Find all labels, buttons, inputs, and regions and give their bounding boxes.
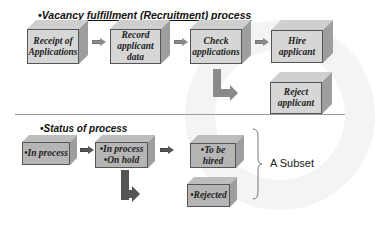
box-in-process: •In process [22,135,77,165]
arrow-right-icon [255,38,269,46]
section-divider [15,114,345,115]
arrow-right-icon [80,146,94,154]
curly-brace-icon [252,128,262,200]
box-reject-applicant: Reject applicant [270,72,332,114]
box-in-process-on-hold: •In process •On hold [95,135,155,168]
arrow-right-icon [160,146,174,154]
arrow-right-icon [92,38,106,46]
box-hire-applicant: Hire applicant [271,20,333,63]
box-rejected: •Rejected [187,177,237,207]
box-record-applicant-data: Record applicant data [110,20,170,64]
arrow-right-icon [174,38,188,46]
box-to-be-hired: •To be hired [190,135,244,168]
status-process-title: •Status of process [40,123,127,134]
box-check-applications: Check applications [190,20,251,64]
box-receipt-of-applications: Receipt of Applications [27,20,88,64]
subset-label: A Subset [270,157,314,169]
